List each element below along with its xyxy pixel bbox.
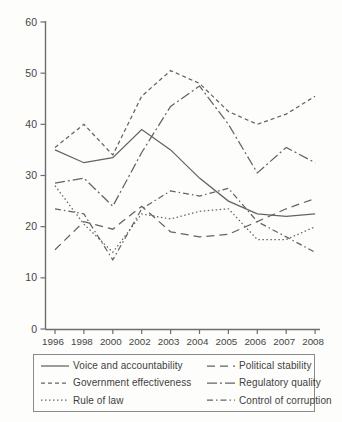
y-tick-label: 50 [25, 67, 37, 79]
x-tick-label: 1998 [71, 336, 93, 347]
x-tick-label: 1996 [42, 336, 64, 347]
x-tick-label: 2007 [273, 336, 295, 347]
series-line-control-of-corruption [55, 188, 315, 260]
y-tick-label: 10 [25, 271, 37, 283]
series-line-political-stability [55, 199, 315, 250]
x-tick-label: 2008 [302, 336, 324, 347]
plot-svg: 0102030405060199619982000200220032004200… [0, 0, 342, 352]
y-tick-label: 30 [25, 169, 37, 181]
legend-line-sample-icon [206, 378, 236, 388]
y-tick-label: 20 [25, 220, 37, 232]
legend-label: Rule of law [73, 395, 124, 406]
legend-line-sample-icon [206, 361, 236, 371]
x-tick-label: 2002 [129, 336, 151, 347]
legend-item-political-stability: Political stability [206, 360, 332, 371]
y-tick-label: 40 [25, 118, 37, 130]
legend-item-control-of-corruption: Control of corruption [206, 395, 332, 406]
legend-item-regulatory-quality: Regulatory quality [206, 377, 332, 388]
legend-line-sample-icon [40, 361, 70, 371]
legend-label: Political stability [239, 360, 311, 371]
x-tick-label: 2000 [100, 336, 122, 347]
legend-label: Voice and accountability [73, 360, 183, 371]
x-tick-label: 2003 [158, 336, 180, 347]
legend-label: Government effectiveness [73, 377, 191, 388]
x-tick-label: 2004 [187, 336, 209, 347]
legend-line-sample-icon [40, 378, 70, 388]
legend-line-sample-icon [206, 395, 236, 405]
legend-item-government-effectiveness: Government effectiveness [40, 377, 206, 388]
y-tick-label: 0 [31, 323, 37, 335]
legend-line-sample-icon [40, 395, 70, 405]
x-tick-label: 2006 [244, 336, 266, 347]
y-tick-label: 60 [25, 16, 37, 28]
series-line-rule-of-law [55, 186, 315, 253]
legend-label: Control of corruption [239, 395, 332, 406]
series-line-voice-and-accountability [55, 130, 315, 217]
x-tick-label: 2005 [216, 336, 238, 347]
series-line-government-effectiveness [55, 71, 315, 155]
series-line-regulatory-quality [55, 86, 315, 206]
legend-item-rule-of-law: Rule of law [40, 395, 206, 406]
legend-label: Regulatory quality [239, 377, 321, 388]
legend-item-voice-and-accountability: Voice and accountability [40, 360, 206, 371]
scanned-line-chart-page: { "chart_data": { "type": "line", "title… [0, 0, 342, 422]
chart-area: 0102030405060199619982000200220032004200… [0, 0, 342, 352]
legend: Voice and accountabilityGovernment effec… [33, 354, 315, 412]
